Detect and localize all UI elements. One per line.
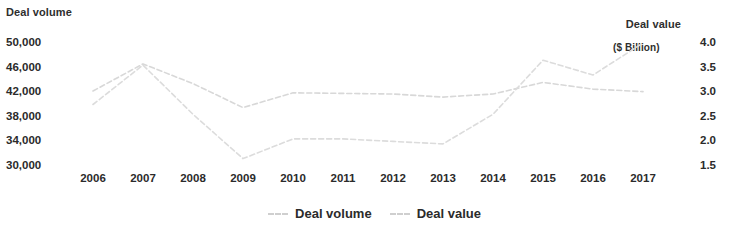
legend-line-swatch-icon — [268, 213, 288, 215]
left-axis-tick-label: 34,000 — [6, 134, 62, 146]
x-axis-tick-label: 2008 — [171, 172, 215, 184]
legend-item[interactable]: Deal volume — [268, 206, 372, 221]
series-line-deal-value — [93, 43, 643, 159]
left-axis-tick-label: 38,000 — [6, 110, 62, 122]
x-axis-tick-label: 2006 — [71, 172, 115, 184]
right-axis-tick-label: 2.5 — [700, 110, 744, 122]
legend-label: Deal value — [417, 206, 481, 221]
series-line-deal-volume — [93, 64, 643, 108]
deal-volume-value-chart: Deal volume Deal value ($ Billion) 50,00… — [0, 0, 749, 234]
right-axis-tick-label: 4.0 — [700, 36, 744, 48]
x-axis-tick-label: 2017 — [621, 172, 665, 184]
legend-line-swatch-icon — [390, 213, 410, 215]
x-axis-tick-label: 2007 — [121, 172, 165, 184]
right-axis-tick-label: 3.5 — [700, 61, 744, 73]
legend-item[interactable]: Deal value — [390, 206, 481, 221]
x-axis-tick-label: 2015 — [521, 172, 565, 184]
right-axis-tick-label: 1.5 — [700, 159, 744, 171]
x-axis-tick-label: 2012 — [371, 172, 415, 184]
right-axis-tick-label: 3.0 — [700, 85, 744, 97]
plot-area — [0, 0, 749, 234]
x-axis-tick-label: 2016 — [571, 172, 615, 184]
left-axis-tick-label: 30,000 — [6, 159, 62, 171]
legend-label: Deal volume — [295, 206, 372, 221]
right-axis-tick-label: 2.0 — [700, 134, 744, 146]
x-axis-tick-label: 2014 — [471, 172, 515, 184]
x-axis-tick-label: 2013 — [421, 172, 465, 184]
left-axis-tick-label: 50,000 — [6, 36, 62, 48]
left-axis-tick-label: 46,000 — [6, 61, 62, 73]
left-axis-tick-label: 42,000 — [6, 85, 62, 97]
x-axis-tick-label: 2009 — [221, 172, 265, 184]
chart-legend: Deal volumeDeal value — [0, 206, 749, 221]
x-axis-tick-label: 2011 — [321, 172, 365, 184]
x-axis-tick-label: 2010 — [271, 172, 315, 184]
